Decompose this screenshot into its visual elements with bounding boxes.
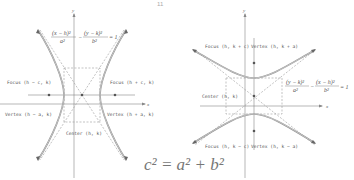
right-focus-bottom-point [253,130,256,133]
eq-denominator: b² [324,87,329,93]
left-equation: (x − h)² a² − (y − k)² b² = 1 [51,30,118,44]
eq-equals: = 1 [340,84,349,90]
right-focus-top-point [253,62,256,65]
right-focus-top-label: Focus (h, k + c) [205,44,249,49]
left-y-axis-label: y [71,8,75,13]
right-center-label: Center (h, k) [202,94,238,99]
right-y-axis-arrow-icon [244,13,247,17]
eq-numerator: (y − k)² [84,30,102,37]
right-x-axis-label: x [325,104,329,109]
eq-numerator: (x − h)² [52,30,71,37]
left-focus-right-point [114,94,117,97]
right-vertex-bottom-label: Vertex (h, k − a) [251,144,298,149]
eq-equals: = 1 [109,34,118,40]
eq-denominator: a² [60,38,65,44]
left-focus-left-point [48,94,51,97]
eq-denominator: b² [92,38,97,44]
relation-equation: c² = a² + b² [144,155,225,174]
right-equation: (y − k)² a² − (x − h)² b² = 1 [285,79,349,93]
left-focus-left-label: Focus (h − c, k) [7,80,51,85]
left-center-label: Center (h, k) [66,131,102,136]
left-hyperbola-diagram: y x (x − h)² a² − (y − k)² [0,8,154,178]
right-y-axis-label: y [242,8,246,13]
left-y-axis-arrow-icon [73,13,76,17]
eq-numerator: (y − k)² [286,79,304,86]
left-vertex-right-label: Vertex (h + a, k) [107,112,154,117]
left-x-axis-arrow-icon [142,103,146,106]
right-center-point [253,95,256,98]
left-focus-right-label: Focus (h + c, k) [110,80,154,85]
left-vertex-left-label: Vertex (h − a, k) [5,112,52,117]
hyperbola-diagrams: 11 y x (x − h)² a² [0,0,354,180]
left-center-point [81,94,84,97]
eq-numerator: (x − h)² [316,79,335,86]
page-marker: 11 [157,1,164,7]
eq-denominator: a² [293,87,298,93]
left-x-axis-label: x [146,102,150,107]
eq-minus: − [310,83,314,89]
right-hyperbola-diagram: y x Focus (h, k + c) Vertex (h, k + a) C… [192,8,349,178]
right-x-axis-arrow-icon [319,105,323,108]
right-vertex-top-label: Vertex (h, k + a) [251,44,298,49]
right-focus-bottom-label: Focus (h, k − c) [205,144,249,149]
eq-minus: − [78,34,82,40]
